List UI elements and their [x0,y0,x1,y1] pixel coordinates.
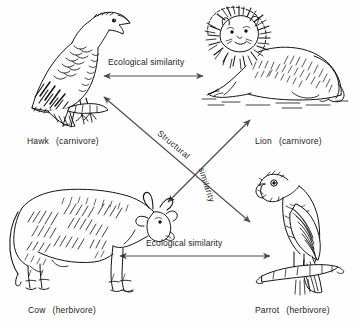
caption-cow-diet: (herbivore) [53,305,96,315]
caption-parrot-name: Parrot [255,305,279,315]
caption-lion: Lion(carnivore) [255,136,322,146]
caption-lion-diet: (carnivore) [279,136,322,146]
connector-label-hawk-lion: Ecological similarity [108,57,184,67]
caption-parrot: Parrot(herbivore) [255,305,330,315]
lion-engraving [196,6,352,118]
diagram-canvas: Ecological similarity Ecological similar… [0,0,357,325]
caption-hawk-diet: (carnivore) [56,136,99,146]
parrot-engraving [252,164,350,298]
caption-cow-name: Cow [28,305,46,315]
caption-hawk-name: Hawk [27,136,49,146]
cow-engraving [8,178,180,296]
caption-cow: Cow(herbivore) [28,305,96,315]
connector-label-cow-parrot: Ecological similarity [146,238,222,248]
caption-parrot-diet: (herbivore) [286,305,329,315]
caption-hawk: Hawk(carnivore) [27,136,99,146]
caption-lion-name: Lion [255,136,272,146]
